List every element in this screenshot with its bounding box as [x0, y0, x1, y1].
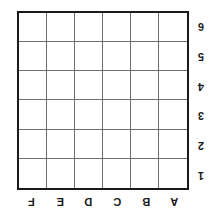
column-label: C	[103, 191, 132, 213]
grid-cell[interactable]	[103, 42, 131, 71]
column-label: F	[17, 191, 46, 213]
grid-cell[interactable]	[131, 42, 159, 71]
grid-cell[interactable]	[75, 71, 103, 100]
grid-cell[interactable]	[19, 130, 47, 159]
grid-cell[interactable]	[131, 71, 159, 100]
grid-board[interactable]	[17, 11, 189, 190]
grid-cell[interactable]	[47, 13, 75, 42]
column-label: D	[74, 191, 103, 213]
grid-cell[interactable]	[47, 130, 75, 159]
grid-cell[interactable]	[47, 71, 75, 100]
grid-board-figure: 6 5 4 3 2 1 F E D C B A	[0, 0, 211, 218]
grid-cell[interactable]	[159, 71, 187, 100]
row-label: 6	[191, 11, 211, 41]
grid-cell[interactable]	[131, 130, 159, 159]
grid-cell[interactable]	[159, 159, 187, 188]
grid-cell[interactable]	[131, 159, 159, 188]
grid-cell[interactable]	[131, 100, 159, 129]
grid-cell[interactable]	[159, 13, 187, 42]
row-label: 4	[191, 71, 211, 101]
grid-cell[interactable]	[103, 130, 131, 159]
column-label: A	[160, 191, 189, 213]
grid-cell[interactable]	[159, 100, 187, 129]
grid-cell[interactable]	[75, 42, 103, 71]
grid-cell[interactable]	[75, 130, 103, 159]
grid-cell[interactable]	[103, 159, 131, 188]
column-label-axis: F E D C B A	[17, 191, 189, 213]
grid-cell[interactable]	[75, 100, 103, 129]
grid-cell[interactable]	[131, 13, 159, 42]
grid-cell[interactable]	[47, 42, 75, 71]
grid-cell[interactable]	[19, 71, 47, 100]
grid-cell[interactable]	[75, 13, 103, 42]
grid-cell[interactable]	[75, 159, 103, 188]
column-label: E	[46, 191, 75, 213]
grid-cell[interactable]	[19, 42, 47, 71]
row-label-axis: 6 5 4 3 2 1	[191, 11, 211, 190]
grid-cell[interactable]	[159, 42, 187, 71]
row-label: 2	[191, 130, 211, 160]
grid-cell[interactable]	[19, 100, 47, 129]
grid-cell[interactable]	[103, 71, 131, 100]
grid-cell[interactable]	[47, 159, 75, 188]
grid-cell[interactable]	[47, 100, 75, 129]
row-label: 1	[191, 160, 211, 190]
grid-cell[interactable]	[103, 13, 131, 42]
row-label: 3	[191, 100, 211, 130]
row-label: 5	[191, 41, 211, 71]
grid-cell[interactable]	[159, 130, 187, 159]
grid-cell[interactable]	[19, 13, 47, 42]
column-label: B	[132, 191, 161, 213]
grid-cell[interactable]	[103, 100, 131, 129]
grid-cell[interactable]	[19, 159, 47, 188]
